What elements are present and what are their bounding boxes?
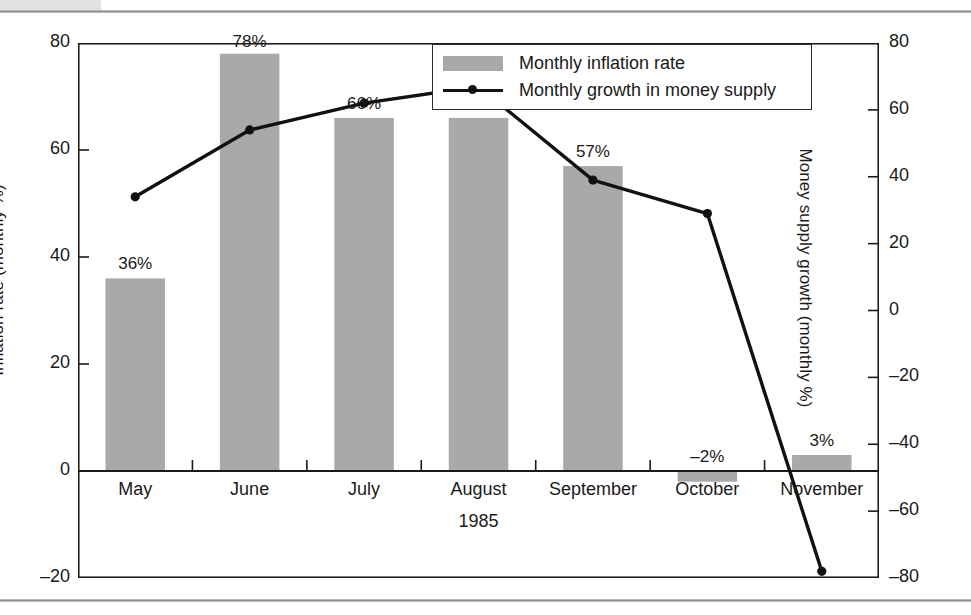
left-tick-label: 20 — [24, 352, 70, 373]
category-label-november: November — [765, 479, 879, 500]
right-tick-label: 40 — [889, 165, 935, 186]
left-tick-label: 40 — [24, 245, 70, 266]
right-tick-label: –60 — [889, 499, 935, 520]
line-marker-may — [131, 192, 140, 201]
right-tick-label: 80 — [889, 31, 935, 52]
bar-value-label-november: 3% — [765, 431, 879, 451]
figure-container: Inflation rate (monthly %) Money supply … — [0, 0, 971, 615]
bar-value-label-october: –2% — [650, 447, 764, 467]
category-label-october: October — [650, 479, 764, 500]
line-marker-november — [817, 567, 826, 576]
right-tick-label: 60 — [889, 98, 935, 119]
left-axis-title: Inflation rate (monthly %) — [0, 0, 8, 615]
bar-may — [105, 278, 164, 471]
left-tick-label: 80 — [24, 31, 70, 52]
line-marker-september — [588, 175, 597, 184]
bar-value-label-july: 66% — [307, 94, 421, 114]
left-tick-label: 0 — [24, 459, 70, 480]
line-marker-october — [703, 209, 712, 218]
right-tick-label: 20 — [889, 232, 935, 253]
bar-july — [334, 118, 394, 471]
x-axis-year-label: 1985 — [421, 511, 535, 532]
bar-august — [449, 118, 509, 471]
bar-june — [220, 54, 280, 471]
left-tick-label: –20 — [24, 566, 70, 587]
left-tick-label: 60 — [24, 138, 70, 159]
bar-value-label-may: 36% — [78, 254, 192, 274]
category-label-may: May — [78, 479, 192, 500]
legend-line-marker-icon — [443, 82, 503, 98]
bottom-divider-rule — [0, 599, 971, 602]
bar-value-label-september: 57% — [536, 142, 650, 162]
right-tick-label: –80 — [889, 566, 935, 587]
line-marker-june — [245, 125, 254, 134]
legend-swatch-icon — [443, 56, 503, 71]
bar-value-label-june: 78% — [192, 32, 306, 52]
category-label-august: August — [421, 479, 535, 500]
bar-september — [563, 166, 623, 471]
top-divider-rule — [0, 10, 971, 13]
legend-label-bar: Monthly inflation rate — [519, 53, 685, 74]
chart-legend: Monthly inflation rate Monthly growth in… — [432, 44, 812, 110]
legend-item-line: Monthly growth in money supply — [443, 77, 776, 103]
right-tick-label: –40 — [889, 432, 935, 453]
category-label-july: July — [307, 479, 421, 500]
bars-group — [105, 54, 851, 482]
category-label-september: September — [536, 479, 650, 500]
legend-item-bar: Monthly inflation rate — [443, 50, 685, 76]
right-tick-label: –20 — [889, 365, 935, 386]
category-label-june: June — [192, 479, 306, 500]
bar-november — [792, 455, 852, 471]
legend-label-line: Monthly growth in money supply — [519, 80, 776, 101]
right-tick-label: 0 — [889, 299, 935, 320]
